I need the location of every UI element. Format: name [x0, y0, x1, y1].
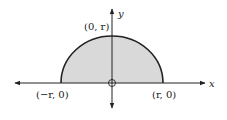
semicircle-diagram: y x (0, r) (−r, 0) (r, 0)	[0, 0, 227, 120]
point-label-right: (r, 0)	[152, 89, 176, 100]
y-axis-label: y	[117, 8, 124, 19]
point-label-left: (−r, 0)	[36, 89, 69, 100]
x-axis-label: x	[209, 78, 215, 89]
point-label-top: (0, r)	[84, 21, 109, 32]
